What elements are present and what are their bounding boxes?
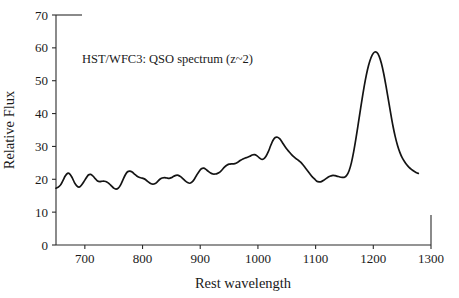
chart-annotation: HST/WFC3: QSO spectrum (z~2): [82, 52, 253, 66]
x-axis-title: Rest wavelength: [195, 275, 292, 291]
y-tick-label: 40: [35, 106, 48, 121]
y-axis-ticks: 010203040506070: [35, 8, 56, 253]
chart-figure: 010203040506070 700800900100011001200130…: [0, 0, 459, 298]
x-tick-label: 900: [190, 251, 210, 266]
y-tick-label: 20: [35, 172, 48, 187]
y-tick-label: 50: [35, 73, 48, 88]
plot-data: [56, 52, 418, 189]
x-tick-label: 800: [133, 251, 153, 266]
y-axis-title: Relative Flux: [1, 90, 17, 169]
y-tick-label: 30: [35, 139, 48, 154]
x-tick-label: 1000: [245, 251, 271, 266]
y-tick-label: 0: [42, 238, 49, 253]
x-tick-label: 1200: [360, 251, 386, 266]
y-tick-label: 10: [35, 205, 48, 220]
spectrum-line: [56, 52, 418, 189]
y-tick-label: 70: [35, 8, 48, 23]
x-tick-label: 1100: [303, 251, 329, 266]
x-tick-label: 700: [75, 251, 95, 266]
x-tick-label: 1300: [418, 251, 444, 266]
y-tick-label: 60: [35, 40, 48, 55]
spectrum-plot: 010203040506070 700800900100011001200130…: [0, 0, 459, 298]
x-axis-ticks: 7008009001000110012001300: [75, 245, 444, 266]
plot-axes: 010203040506070 700800900100011001200130…: [35, 8, 444, 267]
